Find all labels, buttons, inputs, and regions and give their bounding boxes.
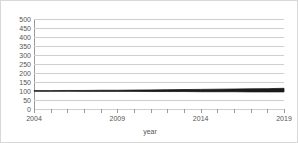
y-axis-tick-label: 450 [3,25,31,32]
y-axis-tick-label: 250 [3,61,31,68]
x-axis-tick [167,109,168,113]
x-axis-tick [34,109,35,113]
x-axis-tick-label: 2004 [26,115,42,123]
plot-area [34,19,284,109]
y-axis-tick-label: 500 [3,16,31,23]
data-series-layer [34,19,284,109]
x-axis-tick [234,109,235,113]
x-axis-tick [251,109,252,113]
x-axis-tick [184,109,185,113]
x-axis-tick [217,109,218,113]
x-axis-tick [84,109,85,113]
series-svg [34,19,284,109]
y-axis-tick-label: 150 [3,79,31,86]
x-axis-tick [151,109,152,113]
data-band [34,88,284,92]
x-axis-tick [51,109,52,113]
y-axis-tick-label: 200 [3,70,31,77]
x-axis-tick [67,109,68,113]
y-axis-tick-label: 0 [3,106,31,113]
x-axis-tick [101,109,102,113]
x-axis-tick-label: 2019 [276,115,292,123]
y-axis-tick-label: 300 [3,52,31,59]
x-axis-tick [201,109,202,113]
x-axis-title: year [1,128,298,136]
y-axis-tick-label: 400 [3,34,31,41]
x-axis-tick-label: 2009 [110,115,126,123]
chart-figure: 500450400350300250200150100500 200420092… [0,0,298,143]
x-axis-tick [267,109,268,113]
y-axis-tick-label: 350 [3,43,31,50]
gridline [34,109,284,110]
y-axis-tick-label: 100 [3,88,31,95]
x-axis-tick [284,109,285,113]
x-axis-tick [117,109,118,113]
x-axis-tick-label: 2014 [193,115,209,123]
x-axis-tick [134,109,135,113]
y-axis-tick-label: 50 [3,97,31,104]
